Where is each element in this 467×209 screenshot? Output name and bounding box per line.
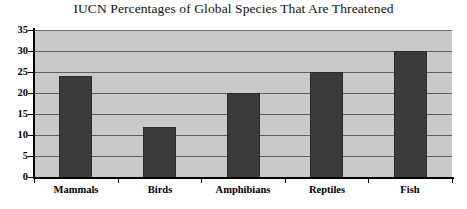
x-tick-mark-3 [285,179,286,183]
y-tick-mark-35 [28,30,34,31]
y-tick-label-10: 10 [0,130,28,141]
x-tick-mark-4 [368,179,369,183]
y-tick-label-30: 30 [0,46,28,57]
bar-amphibians [227,93,260,177]
x-label-fish: Fish [368,185,452,196]
y-tick-label-35: 35 [0,25,28,36]
chart-title: IUCN Percentages of Global Species That … [0,1,467,17]
y-tick-label-15: 15 [0,109,28,120]
x-tick-mark-1 [118,179,119,183]
plot-area [34,30,452,177]
y-tick-mark-0 [28,177,34,178]
y-tick-label-5: 5 [0,151,28,162]
y-tick-label-0: 0 [0,172,28,183]
x-label-reptiles: Reptiles [285,185,369,196]
x-label-amphibians: Amphibians [201,185,285,196]
y-tick-mark-30 [28,51,34,52]
bar-fish [394,51,427,177]
x-tick-mark-5 [452,179,453,183]
y-tick-mark-20 [28,93,34,94]
x-tick-mark-2 [201,179,202,183]
x-tick-mark-0 [34,179,35,183]
x-label-mammals: Mammals [34,185,118,196]
y-tick-mark-10 [28,135,34,136]
bars-layer [34,30,452,177]
x-axis-line [33,177,454,179]
y-tick-mark-5 [28,156,34,157]
bar-reptiles [310,72,343,177]
x-label-birds: Birds [118,185,202,196]
bar-chart-figure: IUCN Percentages of Global Species That … [0,0,467,209]
y-tick-label-25: 25 [0,67,28,78]
bar-birds [143,127,176,177]
y-tick-mark-25 [28,72,34,73]
y-tick-label-20: 20 [0,88,28,99]
y-tick-mark-15 [28,114,34,115]
bar-mammals [59,76,92,177]
